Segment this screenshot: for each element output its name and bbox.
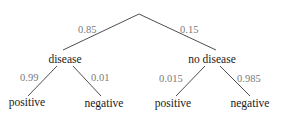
prob-disease-negative: 0.01	[91, 72, 109, 83]
leaf-no-disease-negative: negative	[231, 97, 270, 110]
leaf-no-disease-positive: positive	[155, 97, 191, 110]
edge-root-no-disease	[139, 14, 216, 50]
prob-no-disease: 0.15	[180, 24, 198, 35]
node-no-disease: no disease	[188, 53, 236, 65]
node-disease: disease	[48, 53, 81, 65]
probability-tree-diagram: 0.85 0.15 disease no disease 0.99 0.01 0…	[0, 0, 283, 124]
prob-disease-positive: 0.99	[20, 72, 38, 83]
leaf-disease-negative: negative	[85, 97, 124, 110]
edge-root-disease	[63, 14, 139, 50]
prob-no-disease-negative: 0.985	[237, 73, 261, 84]
prob-no-disease-positive: 0.015	[159, 73, 183, 84]
prob-disease: 0.85	[78, 24, 96, 35]
leaf-disease-positive: positive	[9, 96, 45, 109]
